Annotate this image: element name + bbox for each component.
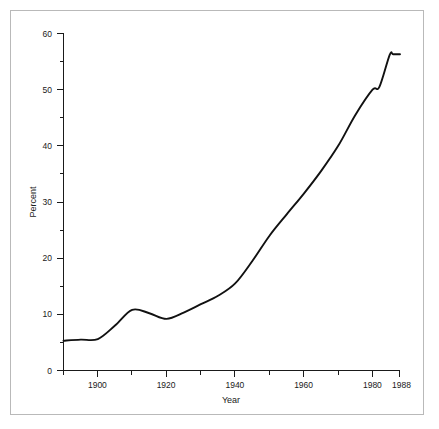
line-chart: 0 10 20 30 40 50 60 1900 1920 1940 1960 … [0, 0, 439, 429]
figure-container: 0 10 20 30 40 50 60 1900 1920 1940 1960 … [0, 0, 439, 429]
y-tick-label-50: 50 [43, 85, 53, 95]
y-tick-label-40: 40 [43, 141, 53, 151]
x-axis-major-ticks [97, 371, 400, 378]
x-tick-label-1900: 1900 [88, 380, 107, 390]
y-tick-label-10: 10 [43, 309, 53, 319]
y-axis-major-ticks [57, 34, 64, 371]
x-axis-title: Year [222, 395, 240, 405]
y-tick-label-30: 30 [43, 197, 53, 207]
x-tick-label-1920: 1920 [157, 380, 176, 390]
x-axis-minor-ticks [64, 371, 339, 375]
x-tick-label-1988: 1988 [392, 380, 411, 390]
y-tick-label-20: 20 [43, 253, 53, 263]
y-tick-label-60: 60 [43, 29, 53, 39]
x-tick-label-1980: 1980 [363, 380, 382, 390]
x-tick-label-1960: 1960 [294, 380, 313, 390]
x-tick-label-1940: 1940 [225, 380, 244, 390]
data-series-line [64, 52, 401, 340]
y-axis-title: Percent [28, 186, 38, 218]
y-tick-label-0: 0 [47, 366, 52, 376]
